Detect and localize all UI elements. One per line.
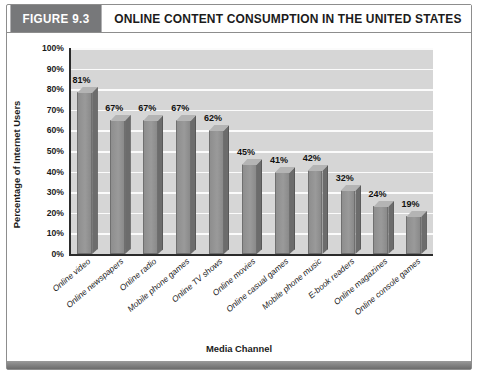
- bar-front-face: [406, 216, 421, 254]
- bar-slot: 24%: [373, 48, 393, 254]
- bar-value-label: 32%: [335, 173, 355, 183]
- y-axis-tick-label: 70%: [47, 105, 64, 115]
- bar-side-face: [92, 87, 98, 254]
- figure-title-container: ONLINE CONTENT CONSUMPTION IN THE UNITED…: [105, 5, 471, 32]
- figure-number-badge: FIGURE 9.3: [10, 5, 101, 32]
- bar-value-label: 81%: [71, 75, 91, 85]
- bar-front-face: [143, 120, 158, 254]
- y-axis-title: Percentage of Internet Users: [9, 74, 25, 254]
- bar-side-face: [421, 211, 427, 254]
- x-axis-title: Media Channel: [7, 343, 471, 354]
- bar-front-face: [242, 164, 257, 254]
- bar-front-face: [308, 170, 323, 254]
- bars-layer: 81%67%67%67%62%45%41%42%32%24%19%: [71, 48, 433, 254]
- y-axis-tick-label: 30%: [47, 187, 64, 197]
- bar-value-label: 19%: [400, 199, 420, 209]
- bar-front-face: [209, 130, 224, 254]
- bar-slot: 45%: [242, 48, 262, 254]
- bar[interactable]: [275, 172, 295, 254]
- bar-side-face: [191, 115, 197, 254]
- figure-footer-bar: [7, 361, 471, 369]
- bar-value-label: 24%: [367, 189, 387, 199]
- y-axis-tick-label: 0%: [52, 249, 64, 259]
- bar[interactable]: [406, 216, 426, 254]
- y-axis-tick-label: 10%: [47, 228, 64, 238]
- bar-slot: 32%: [341, 48, 361, 254]
- bar-front-face: [275, 172, 290, 254]
- bar[interactable]: [209, 130, 229, 254]
- bar-value-label: 67%: [137, 103, 157, 113]
- bar-value-label: 67%: [170, 103, 190, 113]
- figure-frame: FIGURE 9.3 ONLINE CONTENT CONSUMPTION IN…: [6, 4, 472, 370]
- bar[interactable]: [308, 170, 328, 254]
- bar-front-face: [373, 206, 388, 254]
- y-axis-tick-label: 50%: [47, 146, 64, 156]
- plot-area: 81%67%67%67%62%45%41%42%32%24%19%: [69, 48, 433, 256]
- bar-value-label: 67%: [104, 103, 124, 113]
- y-axis-title-label: Percentage of Internet Users: [12, 100, 23, 228]
- bar-side-face: [355, 185, 361, 254]
- bar-slot: 67%: [110, 48, 130, 254]
- bar[interactable]: [143, 120, 163, 254]
- bar-side-face: [125, 115, 131, 254]
- bar[interactable]: [373, 206, 393, 254]
- bar-slot: 67%: [176, 48, 196, 254]
- bar-value-label: 41%: [269, 155, 289, 165]
- bar-side-face: [224, 125, 230, 254]
- y-axis-tick-label: 100%: [42, 43, 64, 53]
- y-axis-tick-label: 80%: [47, 84, 64, 94]
- bar-front-face: [176, 120, 191, 254]
- y-axis-tick-label: 40%: [47, 167, 64, 177]
- y-axis-ticks: 0%10%20%30%40%50%60%70%80%90%100%: [25, 48, 67, 254]
- figure-title: ONLINE CONTENT CONSUMPTION IN THE UNITED…: [114, 12, 461, 26]
- bar[interactable]: [176, 120, 196, 254]
- bar[interactable]: [242, 164, 262, 254]
- bar-slot: 41%: [275, 48, 295, 254]
- bar-value-label: 45%: [236, 147, 256, 157]
- bar[interactable]: [110, 120, 130, 254]
- x-axis-category-label: Mobile phone music: [260, 256, 323, 312]
- bar-slot: 62%: [209, 48, 229, 254]
- y-axis-tick-label: 20%: [47, 208, 64, 218]
- bar-side-face: [158, 115, 164, 254]
- y-axis-tick-label: 60%: [47, 125, 64, 135]
- bar-slot: 42%: [308, 48, 328, 254]
- bar[interactable]: [341, 190, 361, 254]
- bar-side-face: [257, 159, 263, 254]
- figure-number-label: FIGURE 9.3: [22, 12, 89, 26]
- y-axis-tick-label: 90%: [47, 64, 64, 74]
- bar-slot: 81%: [77, 48, 97, 254]
- figure-header: FIGURE 9.3 ONLINE CONTENT CONSUMPTION IN…: [7, 5, 471, 33]
- bar-slot: 19%: [406, 48, 426, 254]
- bar-side-face: [388, 201, 394, 254]
- x-axis-category-label: Online newspapers: [64, 256, 125, 310]
- bar[interactable]: [77, 92, 97, 254]
- bar-side-face: [290, 167, 296, 254]
- chart-body: Percentage of Internet Users 0%10%20%30%…: [7, 34, 471, 369]
- x-axis-category-labels: Online videoOnline newspapersOnline radi…: [69, 256, 431, 352]
- bar-front-face: [110, 120, 125, 254]
- bar-side-face: [322, 165, 328, 254]
- bar-slot: 67%: [143, 48, 163, 254]
- bar-value-label: 42%: [302, 153, 322, 163]
- bar-front-face: [77, 92, 92, 254]
- bar-front-face: [341, 190, 356, 254]
- bar-value-label: 62%: [203, 113, 223, 123]
